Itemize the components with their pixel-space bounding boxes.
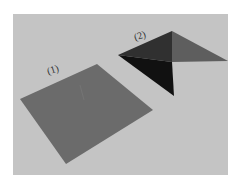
shape-1-square (20, 64, 153, 164)
figure-scene (0, 0, 240, 187)
shape-2-right-upper-face (172, 31, 228, 62)
